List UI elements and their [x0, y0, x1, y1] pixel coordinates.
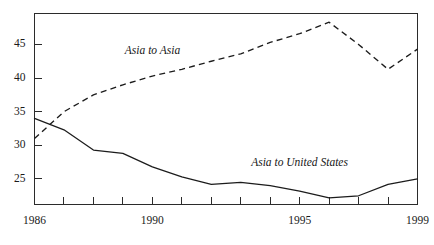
y-tick-label: 25 — [2, 173, 26, 185]
chart-container: 2530354045 1986199019951999 Asia to Asia… — [0, 0, 434, 245]
y-tick-label: 45 — [2, 38, 26, 50]
x-tick-label: 1995 — [278, 215, 322, 227]
axis-frame — [35, 14, 418, 205]
x-tick-label: 1999 — [396, 215, 434, 227]
series-line-asia-to-asia — [35, 22, 418, 138]
y-tick-label: 40 — [2, 72, 26, 84]
series-group — [35, 22, 418, 198]
y-tick-label: 35 — [2, 106, 26, 118]
y-axis-ticks — [35, 44, 43, 179]
series-label-asia-to-asia: Asia to Asia — [125, 45, 180, 57]
x-axis-ticks — [35, 197, 418, 205]
axes-group — [35, 14, 418, 205]
x-tick-label: 1986 — [13, 215, 57, 227]
x-tick-label: 1990 — [130, 215, 174, 227]
y-tick-label: 30 — [2, 139, 26, 151]
series-label-asia-to-united-states: Asia to United States — [251, 157, 348, 169]
series-line-asia-to-united-states — [35, 118, 418, 197]
chart-plot-area — [0, 0, 434, 245]
